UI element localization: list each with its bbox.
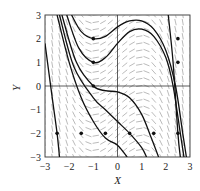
y-tick-label: 0 — [36, 81, 41, 92]
x-tick-labels: −3−2−10123 — [40, 161, 193, 172]
initial-point-dot — [55, 132, 59, 136]
initial-point-dot — [128, 132, 132, 136]
y-tick-label: 1 — [36, 57, 41, 68]
x-tick-label: −2 — [64, 161, 75, 172]
x-axis-label: X — [113, 174, 122, 186]
y-tick-label: 2 — [36, 33, 41, 44]
y-tick-labels: 3210−1−2−3 — [30, 10, 41, 163]
initial-point-dot — [92, 61, 96, 65]
y-tick-label: −3 — [30, 152, 41, 163]
y-axis-label: Y — [10, 83, 22, 91]
initial-point-dot — [104, 132, 108, 136]
y-tick-label: 3 — [36, 10, 41, 21]
x-tick-label: 0 — [115, 161, 120, 172]
x-tick-label: −3 — [40, 161, 51, 172]
initial-point-dot — [176, 132, 180, 136]
slope-field-chart: −3−2−10123 3210−1−2−3 X Y — [0, 0, 200, 191]
y-tick-label: −2 — [30, 128, 41, 139]
initial-point-dot — [152, 132, 156, 136]
initial-point-dot — [176, 61, 180, 65]
x-tick-label: 2 — [163, 161, 168, 172]
initial-point-dot — [92, 37, 96, 41]
initial-point-dot — [92, 84, 96, 88]
x-tick-label: 1 — [139, 161, 144, 172]
x-tick-label: 3 — [188, 161, 193, 172]
y-tick-label: −1 — [30, 104, 41, 115]
initial-point-dot — [176, 37, 180, 41]
x-tick-label: −1 — [88, 161, 99, 172]
initial-point-dot — [79, 132, 83, 136]
